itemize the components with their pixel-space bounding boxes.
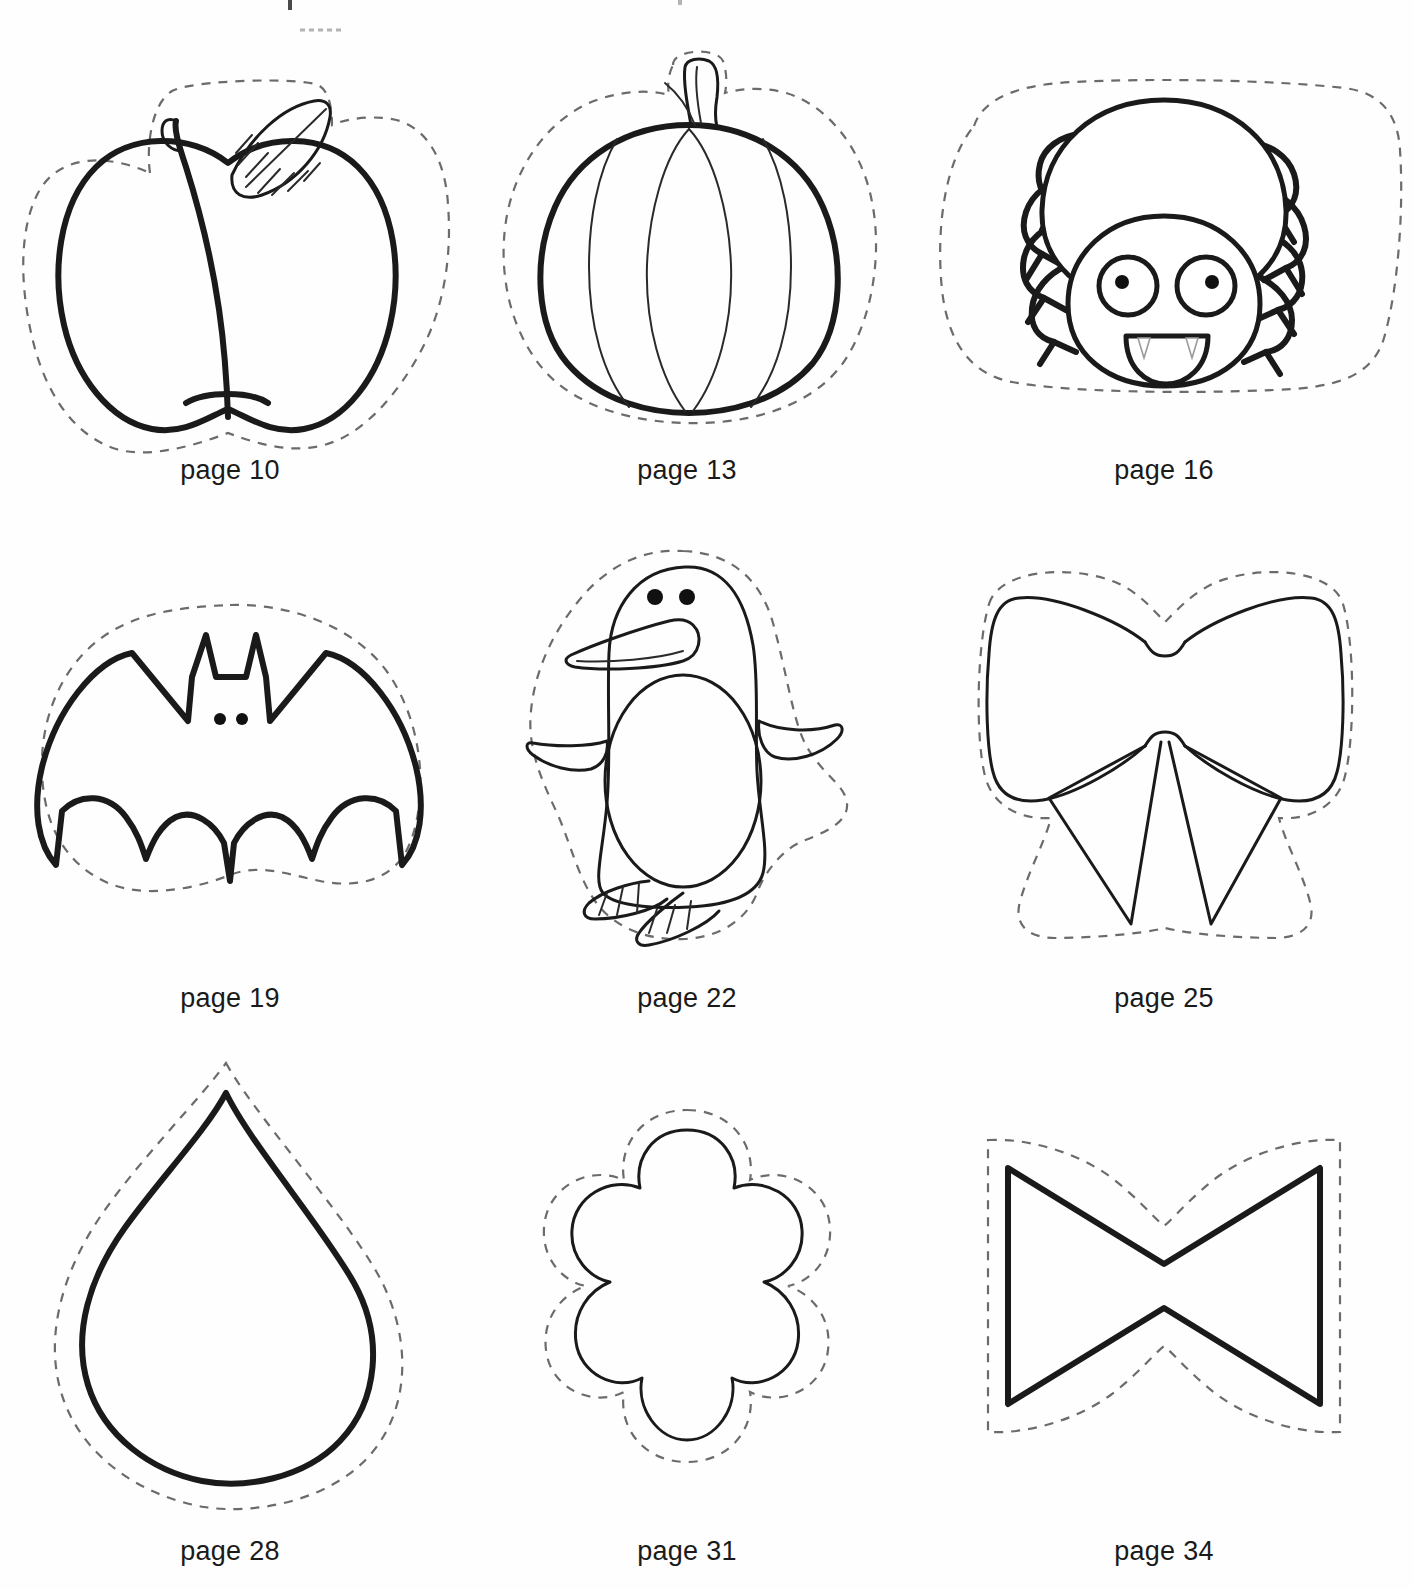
penguin-icon: [507, 541, 867, 951]
bowtie-icon: [964, 1126, 1364, 1446]
flower-icon: [522, 1096, 852, 1476]
pumpkin-icon: [477, 35, 897, 435]
penguin-art: [460, 500, 914, 991]
bow-art: [914, 500, 1414, 991]
teardrop-art: [0, 1030, 460, 1542]
template-cell-teardrop: page 28: [0, 1030, 460, 1589]
spider-icon: [914, 70, 1414, 400]
template-cell-bow: page 25: [914, 500, 1414, 1030]
caption-page-34: page 34: [1114, 1538, 1214, 1571]
bat-icon: [20, 581, 440, 911]
spider-art: [914, 0, 1414, 469]
caption-page-28: page 28: [180, 1538, 280, 1571]
template-cell-flower: page 31: [460, 1030, 914, 1589]
teardrop-icon: [20, 1051, 440, 1521]
caption-page-31: page 31: [637, 1538, 737, 1571]
template-sheet: page 10 page 13: [0, 0, 1414, 1589]
apple-icon: [0, 25, 460, 445]
bowtie-art: [914, 1030, 1414, 1542]
template-cell-spider: page 16: [914, 0, 1414, 500]
template-cell-bowtie: page 34: [914, 1030, 1414, 1589]
template-cell-apple: page 10: [0, 0, 460, 500]
bow-icon: [939, 546, 1389, 946]
apple-art: [0, 0, 460, 469]
template-cell-pumpkin: page 13: [460, 0, 914, 500]
bat-art: [0, 500, 460, 991]
pumpkin-art: [460, 0, 914, 469]
template-cell-penguin: page 22: [460, 500, 914, 1030]
flower-art: [460, 1030, 914, 1542]
template-cell-bat: page 19: [0, 500, 460, 1030]
